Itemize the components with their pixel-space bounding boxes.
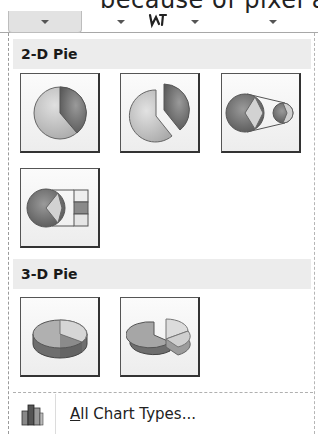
chart-option-exploded-pie-3d[interactable] [120,297,200,377]
section-header-2d-pie: 2-D Pie [13,39,311,69]
pie-dropdown-button[interactable] [8,11,82,33]
exploded-pie-3d-icon [126,311,194,363]
menu-divider [13,392,313,393]
pie-chart-gallery: 2-D Pie [8,33,315,434]
chart-option-pie-of-pie[interactable] [221,73,301,153]
chart-option-pie-3d[interactable] [20,297,100,377]
dropdown-arrow-icon [41,20,49,24]
dropdown-button-2[interactable] [106,11,136,33]
dropdown-arrow-icon [117,20,125,24]
all-chart-types-label: All Chart Types... [56,405,196,423]
dropdown-button-4[interactable] [258,11,288,33]
all-chart-types-button[interactable]: All Chart Types... [9,394,314,434]
exploded-pie-icon [128,82,192,144]
dropdown-arrow-icon [191,20,199,24]
pie-icon [30,83,90,143]
bar-of-pie-icon [26,183,94,233]
dropdown-arrow-icon [269,20,277,24]
chart-types-icon [19,401,45,427]
chart-option-bar-of-pie[interactable] [20,168,100,248]
chart-option-exploded-pie[interactable] [120,73,200,153]
section-header-3d-pie: 3-D Pie [13,259,311,289]
pie-of-pie-icon [225,88,297,138]
sparkline-icon [146,11,172,29]
chart-option-pie[interactable] [20,73,100,153]
pie-3d-icon [27,312,93,362]
dropdown-button-3[interactable] [180,11,210,33]
chart-type-toolbar [0,11,318,33]
